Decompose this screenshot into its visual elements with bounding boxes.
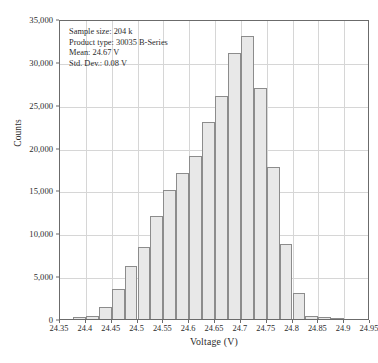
x-axis-tick-mark — [369, 320, 370, 323]
histogram-bar — [228, 53, 241, 319]
x-axis-tick-label: 24.6 — [181, 324, 196, 334]
x-axis-tick-mark — [162, 320, 163, 323]
x-axis-tick-mark — [292, 320, 293, 323]
annotation-sample-size: Sample size: 204 k — [69, 27, 168, 38]
x-axis-tick-mark — [111, 320, 112, 323]
histogram-bar — [163, 190, 176, 319]
x-axis-tick-label: 24.8 — [284, 324, 299, 334]
x-axis-tick-label: 24.65 — [205, 324, 224, 334]
annotation-mean: Mean: 24.67 V — [69, 48, 168, 59]
histogram-bar — [125, 266, 138, 319]
y-axis-tick-label: 35,000 — [29, 16, 53, 25]
histogram-bar — [254, 88, 267, 319]
histogram-bar — [150, 216, 163, 319]
x-axis-tick-label: 24.4 — [78, 324, 93, 334]
histogram-figure: Counts 05,00010,00015,00020,00025,00030,… — [0, 0, 378, 363]
x-axis-tick-mark — [214, 320, 215, 323]
x-axis-tick-mark — [240, 320, 241, 323]
histogram-bar — [293, 293, 306, 319]
y-axis-tick-label: 15,000 — [29, 187, 53, 196]
histogram-bar — [305, 316, 318, 319]
x-axis-tick-mark — [137, 320, 138, 323]
histogram-bar — [73, 317, 86, 319]
histogram-bar — [138, 247, 151, 319]
x-axis-tick-label: 24.35 — [50, 324, 69, 334]
x-axis-title: Voltage (V) — [59, 336, 369, 347]
x-axis-tick-label: 24.85 — [308, 324, 327, 334]
y-axis-tick-label: 5,000 — [34, 273, 53, 282]
histogram-bar — [189, 156, 202, 319]
x-axis-tick-mark — [85, 320, 86, 323]
histogram-bar — [176, 173, 189, 319]
histogram-bar — [112, 289, 125, 319]
x-axis-tick-label: 24.75 — [256, 324, 275, 334]
histogram-bar — [280, 244, 293, 319]
y-axis-tick-label: 10,000 — [29, 230, 53, 239]
annotation-product-type: Product type: 30035 B-Series — [69, 38, 168, 49]
annotation-std-dev: Std. Dev.: 0.08 V — [69, 59, 168, 70]
y-axis-tick-labels: 05,00010,00015,00020,00025,00030,00035,0… — [0, 0, 57, 363]
plot-area: Sample size: 204 k Product type: 30035 B… — [59, 20, 369, 320]
x-axis-tick-labels: 24.3524.424.4524.524.5524.624.6524.724.7… — [59, 320, 369, 336]
x-axis-tick-label: 24.95 — [360, 324, 378, 334]
x-axis-tick-mark — [188, 320, 189, 323]
x-axis-tick-mark — [343, 320, 344, 323]
histogram-bar — [318, 317, 331, 319]
histogram-bar — [267, 167, 280, 319]
x-axis-tick-mark — [317, 320, 318, 323]
histogram-bar — [86, 316, 99, 319]
x-axis-tick-label: 24.5 — [129, 324, 144, 334]
y-axis-tick-label: 25,000 — [29, 101, 53, 110]
x-axis-tick-label: 24.9 — [336, 324, 351, 334]
x-axis-tick-mark — [59, 320, 60, 323]
x-axis-tick-mark — [266, 320, 267, 323]
x-axis-tick-label: 24.7 — [233, 324, 248, 334]
statistics-annotation: Sample size: 204 k Product type: 30035 B… — [66, 26, 171, 70]
histogram-bar — [202, 122, 215, 319]
x-axis-tick-label: 24.45 — [101, 324, 120, 334]
histogram-bar — [331, 318, 344, 319]
histogram-bar — [241, 36, 254, 319]
y-axis-tick-label: 30,000 — [29, 58, 53, 67]
histogram-bar — [215, 96, 228, 319]
y-axis-tick-label: 20,000 — [29, 144, 53, 153]
x-axis-tick-label: 24.55 — [153, 324, 172, 334]
histogram-bar — [99, 307, 112, 319]
